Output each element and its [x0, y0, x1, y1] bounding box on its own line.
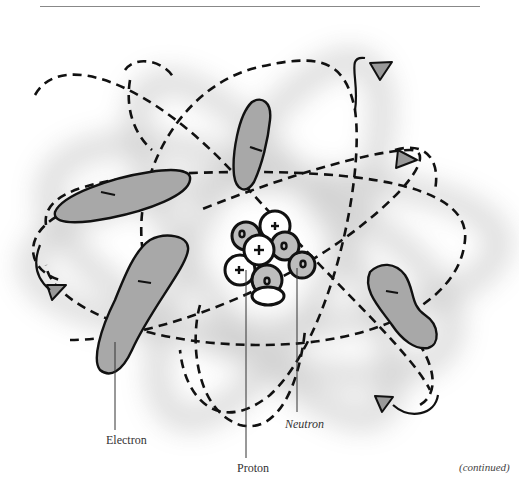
electron-label: Electron: [106, 434, 147, 446]
neutron: [289, 252, 315, 278]
neutron-label: Neutron: [285, 418, 324, 430]
proton-label: Proton: [237, 462, 269, 474]
arrow-icon: [396, 150, 417, 168]
nucleus: [225, 211, 315, 305]
continued-note: (continued): [459, 462, 510, 473]
proton: [252, 287, 284, 305]
atom-diagram: [0, 0, 519, 494]
